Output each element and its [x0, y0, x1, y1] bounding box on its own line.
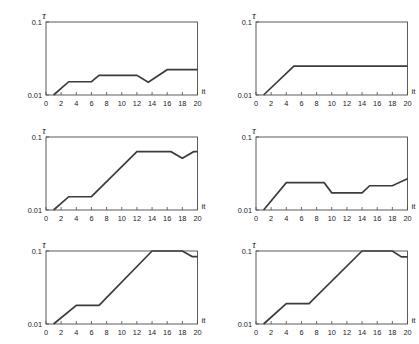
x-tick-label: 10 — [327, 328, 335, 337]
x-axis-title: it — [411, 316, 416, 325]
axes-frame — [46, 251, 197, 324]
x-tick-label: 6 — [89, 328, 93, 337]
x-tick-label: 16 — [163, 99, 171, 108]
y-axis-title: τ — [42, 10, 46, 21]
x-tick-label: 8 — [105, 99, 109, 108]
y-axis-title: τ — [252, 10, 256, 21]
x-tick-label: 6 — [89, 214, 93, 223]
x-axis-title: it — [411, 202, 416, 211]
x-tick-label: 12 — [133, 328, 141, 337]
x-tick-label: 4 — [74, 214, 78, 223]
x-tick-label: 8 — [314, 328, 318, 337]
x-tick-label: 4 — [284, 328, 288, 337]
data-series-line — [54, 70, 198, 95]
x-tick-label: 14 — [148, 328, 156, 337]
x-tick-label: 18 — [388, 99, 396, 108]
plot-area-2: 024681012141618200.010.1τit — [210, 0, 419, 115]
x-tick-label: 18 — [388, 214, 396, 223]
x-tick-label: 0 — [44, 99, 48, 108]
x-axis-title: it — [411, 87, 416, 96]
data-series-line — [263, 66, 407, 95]
plot-area-1: 024681012141618200.010.1τit — [0, 0, 210, 115]
x-tick-label: 10 — [327, 214, 335, 223]
x-tick-label: 16 — [373, 214, 381, 223]
x-tick-label: 4 — [74, 328, 78, 337]
x-tick-label: 12 — [342, 99, 350, 108]
y-tick-label: 0.1 — [241, 247, 251, 256]
x-tick-label: 12 — [133, 99, 141, 108]
x-tick-label: 20 — [403, 214, 411, 223]
chart-panel-2: 024681012141618200.010.1τit — [210, 0, 419, 115]
x-tick-label: 8 — [105, 328, 109, 337]
x-tick-label: 20 — [403, 99, 411, 108]
y-axis-title: τ — [252, 125, 256, 136]
x-tick-label: 2 — [269, 328, 273, 337]
x-axis-ticks: 02468101214161820 — [44, 207, 202, 223]
y-tick-label: 0.01 — [28, 320, 42, 329]
x-tick-label: 20 — [193, 328, 201, 337]
y-axis-title: τ — [42, 239, 46, 250]
axes-frame — [256, 137, 407, 210]
x-tick-label: 2 — [59, 328, 63, 337]
axes-frame — [46, 22, 197, 95]
x-tick-label: 0 — [44, 214, 48, 223]
x-axis-title: it — [201, 202, 206, 211]
plot-area-3: 024681012141618200.010.1τit — [0, 115, 210, 230]
x-tick-label: 20 — [403, 328, 411, 337]
y-tick-label: 0.01 — [28, 91, 42, 100]
x-tick-label: 16 — [373, 328, 381, 337]
y-tick-label: 0.01 — [237, 205, 251, 214]
y-tick-label: 0.01 — [237, 91, 251, 100]
x-tick-label: 18 — [178, 99, 186, 108]
y-axis-title: τ — [42, 125, 46, 136]
x-tick-label: 14 — [357, 99, 365, 108]
y-tick-label: 0.1 — [241, 18, 251, 27]
y-axis-title: τ — [252, 239, 256, 250]
chart-panel-3: 024681012141618200.010.1τit — [0, 115, 210, 230]
x-tick-label: 14 — [357, 214, 365, 223]
plot-area-4: 024681012141618200.010.1τit — [210, 115, 419, 230]
x-tick-label: 0 — [253, 214, 257, 223]
plot-area-6: 024681012141618200.010.1τit — [210, 229, 419, 344]
x-tick-label: 8 — [314, 99, 318, 108]
x-tick-label: 6 — [89, 99, 93, 108]
x-tick-label: 14 — [148, 214, 156, 223]
chart-panel-1: 024681012141618200.010.1τit — [0, 0, 210, 115]
x-tick-label: 0 — [253, 328, 257, 337]
plot-area-5: 024681012141618200.010.1τit — [0, 229, 210, 344]
x-tick-label: 12 — [342, 214, 350, 223]
x-axis-ticks: 02468101214161820 — [253, 321, 411, 337]
x-tick-label: 2 — [59, 214, 63, 223]
data-series-line — [54, 251, 198, 324]
x-tick-label: 8 — [314, 214, 318, 223]
x-tick-label: 12 — [342, 328, 350, 337]
chart-panel-6: 024681012141618200.010.1τit — [210, 229, 419, 344]
x-tick-label: 2 — [269, 214, 273, 223]
x-tick-label: 12 — [133, 214, 141, 223]
y-tick-label: 0.1 — [32, 18, 42, 27]
x-tick-label: 4 — [284, 214, 288, 223]
x-tick-label: 8 — [105, 214, 109, 223]
chart-panel-4: 024681012141618200.010.1τit — [210, 115, 419, 230]
x-axis-ticks: 02468101214161820 — [44, 321, 202, 337]
x-tick-label: 2 — [269, 99, 273, 108]
x-axis-ticks: 02468101214161820 — [253, 207, 411, 223]
x-tick-label: 4 — [284, 99, 288, 108]
x-axis-ticks: 02468101214161820 — [253, 92, 411, 108]
x-tick-label: 18 — [178, 328, 186, 337]
y-tick-label: 0.01 — [237, 320, 251, 329]
x-axis-title: it — [201, 87, 206, 96]
x-tick-label: 0 — [44, 328, 48, 337]
x-tick-label: 6 — [299, 328, 303, 337]
x-tick-label: 14 — [148, 99, 156, 108]
axes-frame — [46, 137, 197, 210]
x-tick-label: 14 — [357, 328, 365, 337]
data-series-line — [54, 151, 198, 209]
x-tick-label: 16 — [163, 328, 171, 337]
x-tick-label: 16 — [163, 214, 171, 223]
axes-frame — [256, 251, 407, 324]
data-series-line — [263, 178, 407, 209]
figure-grid: 024681012141618200.010.1τit0246810121416… — [0, 0, 419, 344]
x-tick-label: 20 — [193, 99, 201, 108]
x-tick-label: 2 — [59, 99, 63, 108]
